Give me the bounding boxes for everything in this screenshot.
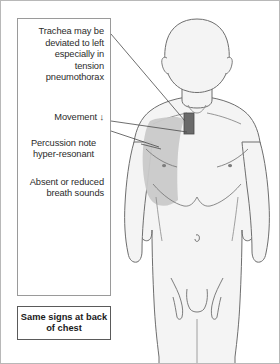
nipple-left <box>162 164 166 167</box>
movement-note: Movement ↓ <box>23 112 104 124</box>
breath-sounds-note-text: Absent or reduced breath sounds <box>30 177 104 199</box>
head-shape <box>165 19 230 93</box>
percussion-note: Percussion note hyper-resonant <box>23 138 104 161</box>
nipple-right <box>228 164 232 167</box>
body-outline-group <box>111 19 269 364</box>
back-of-chest-callout-text: Same signs at back of chest <box>18 312 110 335</box>
breath-sounds-note: Absent or reduced breath sounds <box>23 177 104 200</box>
trachea-deviation-marker <box>184 113 194 134</box>
pneumothorax-signs-figure: Trachea may be deviated to left especial… <box>0 0 280 364</box>
back-of-chest-callout: Same signs at back of chest <box>17 306 111 340</box>
trachea-note-text: Trachea may be deviated to left especial… <box>39 26 104 82</box>
movement-note-text: Movement ↓ <box>54 112 104 122</box>
percussion-note-text: Percussion note hyper-resonant <box>31 138 96 160</box>
trachea-note: Trachea may be deviated to left especial… <box>23 26 104 84</box>
annotation-panel: Trachea may be deviated to left especial… <box>17 18 111 296</box>
